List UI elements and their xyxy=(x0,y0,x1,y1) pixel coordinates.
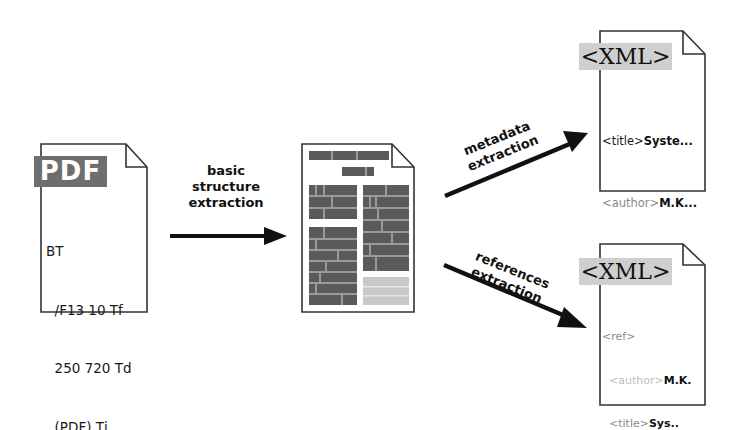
segmented-document xyxy=(301,143,415,313)
xml-line-title: <title>Sys.. xyxy=(602,417,692,430)
arrow-right-icon xyxy=(170,227,287,245)
basic-structure-extraction-label: basic structure extraction xyxy=(166,163,286,211)
xml-line-author: <author>M.K. xyxy=(602,374,692,389)
xml-line-author: <author>M.K... xyxy=(602,193,697,214)
xml-format-label: <XML> xyxy=(579,258,672,285)
xml-line-ref-open: <ref> xyxy=(602,330,692,345)
references-xml-lines: <ref> <author>M.K. <title>Sys.. <journal… xyxy=(602,301,692,430)
page-layout-zones-icon xyxy=(301,143,415,313)
xml-line-title: <title>Syste... xyxy=(602,131,697,152)
xml-format-label: <XML> xyxy=(579,43,672,70)
